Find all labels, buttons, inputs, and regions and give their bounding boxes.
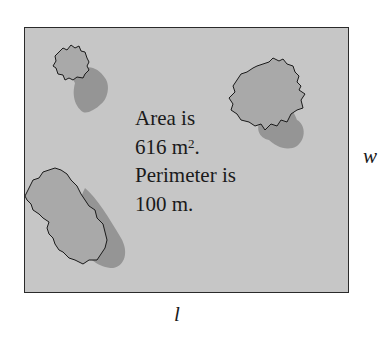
perimeter-label: Perimeter is <box>135 161 236 190</box>
area-exponent: 2 <box>188 136 195 151</box>
area-label: Area is <box>135 104 236 133</box>
tree-top-right-icon <box>229 58 305 148</box>
area-value: 616 m2. <box>135 133 236 162</box>
large-tree-icon <box>25 168 125 268</box>
rectangular-plot: Area is 616 m2. Perimeter is 100 m. <box>24 27 349 293</box>
area-perimeter-text: Area is 616 m2. Perimeter is 100 m. <box>135 104 236 218</box>
width-label: w <box>363 144 377 169</box>
length-label: l <box>174 302 180 327</box>
perimeter-value: 100 m. <box>135 190 236 219</box>
area-number: 616 m <box>135 135 188 159</box>
small-tree-icon <box>53 45 108 113</box>
area-period: . <box>195 135 200 159</box>
